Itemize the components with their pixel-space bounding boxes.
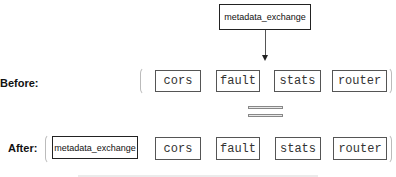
filter-box-stats: stats: [274, 70, 321, 92]
filter-box-metadata-exchange: metadata_exchange: [52, 136, 138, 159]
filter-box-cors: cors: [155, 137, 201, 160]
after-label: After:: [8, 142, 37, 154]
cut-off-caption: [78, 175, 318, 177]
filter-box-cors: cors: [155, 70, 201, 92]
filter-box-stats: stats: [275, 137, 321, 160]
equals-icon-bottom-bar: [248, 114, 283, 117]
insert-arrow-line: [265, 30, 266, 56]
before-label: Before:: [0, 77, 39, 89]
filter-box-router: router: [333, 137, 387, 160]
equals-icon-top-bar: [248, 106, 283, 109]
filter-box-fault: fault: [216, 70, 260, 92]
filter-box-fault: fault: [216, 137, 260, 160]
filter-box-router: router: [332, 70, 387, 92]
down-arrow-icon: [262, 55, 268, 61]
new-filter-box: metadata_exchange: [219, 4, 311, 30]
